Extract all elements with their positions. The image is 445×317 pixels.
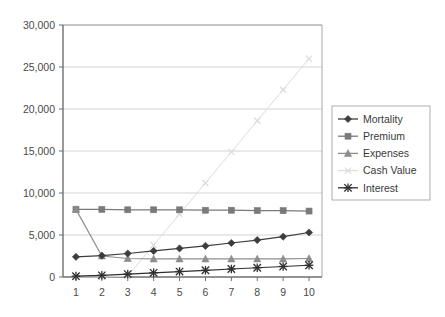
x-tick-label-1: 2 [99, 286, 105, 298]
legend-label: Expenses [363, 147, 409, 159]
y-tick-label-5: 25,000 [23, 61, 55, 73]
series-premium [73, 206, 312, 214]
legend-marker [344, 184, 353, 193]
data-point [228, 149, 234, 155]
data-point [149, 269, 158, 278]
x-tick-label-4: 5 [177, 286, 183, 298]
series-line [76, 209, 309, 211]
data-point [123, 270, 132, 279]
line-chart: 05,00010,00015,00020,00025,00030,0001234… [0, 0, 445, 317]
y-tick-label-2: 10,000 [23, 187, 55, 199]
x-tick-label-6: 7 [228, 286, 234, 298]
data-point [124, 250, 131, 257]
y-tick-label-3: 15,000 [23, 145, 55, 157]
x-tick-label-5: 6 [203, 286, 209, 298]
x-tick-label-0: 1 [73, 286, 79, 298]
data-point [279, 262, 288, 271]
legend-label: Premium [363, 130, 405, 142]
data-point [306, 208, 312, 214]
series-line [76, 232, 309, 256]
data-point [280, 233, 287, 240]
x-tick-label-2: 3 [125, 286, 131, 298]
data-point [202, 207, 208, 213]
data-point [280, 87, 286, 93]
series-expenses [72, 206, 312, 262]
data-point [151, 207, 157, 213]
data-point [227, 265, 236, 274]
x-tick-label-9: 10 [303, 286, 315, 298]
x-tick-label-8: 9 [280, 286, 286, 298]
y-tick-label-0: 0 [49, 271, 55, 283]
series-line [76, 59, 309, 277]
legend-marker [345, 133, 351, 139]
data-point [72, 272, 81, 281]
data-point [253, 263, 262, 272]
data-point [305, 261, 314, 270]
data-point [125, 207, 131, 213]
y-tick-label-1: 5,000 [29, 229, 55, 241]
data-point [98, 271, 107, 280]
series-line [76, 265, 309, 276]
data-point [254, 118, 260, 124]
y-tick-label-4: 20,000 [23, 103, 55, 115]
data-point [254, 208, 260, 214]
data-point [72, 253, 79, 260]
data-point [306, 56, 312, 62]
data-point [202, 242, 209, 249]
data-point [177, 207, 183, 213]
data-point [175, 267, 184, 276]
data-point [202, 180, 208, 186]
series-cash-value [73, 56, 312, 280]
data-point [228, 239, 235, 246]
data-point [228, 207, 234, 213]
x-tick-label-3: 4 [151, 286, 157, 298]
y-tick-label-6: 30,000 [23, 19, 55, 31]
chart-canvas: 05,00010,00015,00020,00025,00030,0001234… [0, 0, 445, 317]
legend-label: Cash Value [363, 164, 417, 176]
series-mortality [72, 229, 312, 261]
data-point [280, 208, 286, 214]
x-tick-label-7: 8 [254, 286, 260, 298]
data-point [201, 266, 210, 275]
data-point [99, 206, 105, 212]
data-point [176, 245, 183, 252]
legend-label: Mortality [363, 113, 403, 125]
legend: MortalityPremiumExpensesCash ValueIntere… [332, 106, 430, 200]
series-line [76, 209, 309, 259]
data-point [254, 236, 261, 243]
legend-label: Interest [363, 182, 398, 194]
